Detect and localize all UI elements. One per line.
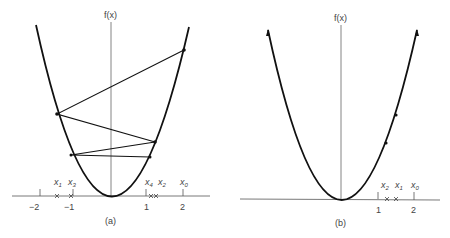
panel-a-caption: (a) xyxy=(105,216,116,226)
tick-label: −1 xyxy=(64,202,74,212)
tick-label: 2 xyxy=(411,205,416,215)
iterate-label-x1: x1 xyxy=(53,177,62,188)
iterate-label-x3: x3 xyxy=(67,177,77,188)
f-axis-label: f(x) xyxy=(334,13,347,23)
panel-b: f(x) 1 2 x2 x1 x0 (b) xyxy=(240,13,440,228)
iterate-label-x2: x2 xyxy=(157,177,167,188)
panel-a: f(x) −2 −1 1 2 x1 x3 x4 x2 x0 xyxy=(12,10,210,226)
tick-label: 1 xyxy=(144,202,149,212)
tick-label: 1 xyxy=(376,205,381,215)
secant-path xyxy=(57,50,184,157)
panel-b-caption: (b) xyxy=(335,218,346,228)
tick-label: 2 xyxy=(180,202,185,212)
iterate-label-x1: x1 xyxy=(394,180,403,191)
iterate-label-x2: x2 xyxy=(380,180,390,191)
iterate-label-x0: x0 xyxy=(410,180,420,191)
iterate-label-x0: x0 xyxy=(179,177,189,188)
f-axis-label: f(x) xyxy=(104,10,117,20)
iterate-label-x4: x4 xyxy=(144,177,154,188)
tick-label: −2 xyxy=(29,202,39,212)
parabola-curve xyxy=(36,25,189,197)
figure: f(x) −2 −1 1 2 x1 x3 x4 x2 x0 xyxy=(0,0,450,238)
